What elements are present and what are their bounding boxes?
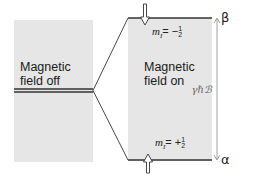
energy-gap-label: γℏℬ xyxy=(192,84,212,95)
diagram-lines xyxy=(0,0,255,181)
upper-level-quantum-number: mI= −12 xyxy=(152,25,182,40)
lower-level-quantum-number: mI= +12 xyxy=(155,136,185,151)
fraction-denominator: 2 xyxy=(181,142,185,149)
m-symbol: m xyxy=(152,25,160,37)
split-line-lower xyxy=(93,91,128,161)
fraction-half: 12 xyxy=(181,137,185,149)
alpha-state-label: α xyxy=(221,152,230,167)
spin-up-arrow-icon xyxy=(144,154,153,173)
split-line-upper xyxy=(93,18,128,91)
spin-down-arrow-icon xyxy=(141,4,150,25)
beta-state-label: β xyxy=(221,10,229,25)
m-value-sign: = − xyxy=(162,25,178,37)
fraction-denominator: 2 xyxy=(178,31,182,38)
m-value-sign: = + xyxy=(165,136,181,148)
fraction-half: 12 xyxy=(178,26,182,38)
m-symbol: m xyxy=(155,136,163,148)
